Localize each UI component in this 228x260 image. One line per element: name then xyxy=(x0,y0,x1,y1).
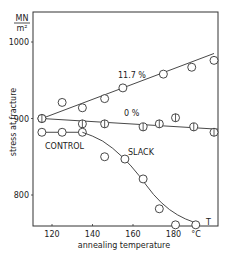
annotation-t: T xyxy=(205,218,211,227)
data-point xyxy=(119,84,127,92)
annotation-control: CONTROL xyxy=(45,142,85,151)
data-point xyxy=(159,70,167,78)
data-point xyxy=(38,128,46,136)
data-point xyxy=(139,175,147,183)
chart: 8009001000120140160180 MN m² stress at f… xyxy=(0,0,228,260)
data-point xyxy=(58,98,66,106)
data-point xyxy=(58,128,66,136)
data-point xyxy=(155,205,163,213)
data-point xyxy=(192,221,200,229)
plot-frame xyxy=(33,12,218,226)
data-point xyxy=(101,153,109,161)
data-point xyxy=(172,221,180,229)
y-tick-label: 800 xyxy=(14,191,29,200)
x-tick-label: 180 xyxy=(166,230,181,239)
x-tick-label: 140 xyxy=(85,230,100,239)
series-slack xyxy=(82,132,199,229)
x-unit: °C xyxy=(191,230,201,239)
data-point xyxy=(188,63,196,71)
data-point xyxy=(78,104,86,112)
annotation-0: 0 % xyxy=(124,109,140,118)
y-axis-label: stress at fracture xyxy=(9,88,18,157)
plot-area-border xyxy=(33,12,218,226)
series-control xyxy=(38,128,87,136)
x-tick-label: 160 xyxy=(125,230,140,239)
y-unit-top: MN xyxy=(16,14,29,23)
annotation-slack: SLACK xyxy=(128,148,155,157)
y-unit-bottom: m² xyxy=(17,24,28,33)
annotation-11-7: 11.7 % xyxy=(118,71,146,80)
data-point xyxy=(101,95,109,103)
x-tick-label: 120 xyxy=(44,230,59,239)
y-tick-label: 1000 xyxy=(9,38,29,47)
x-axis-label: annealing temperature xyxy=(78,241,170,250)
data-point xyxy=(210,56,218,64)
